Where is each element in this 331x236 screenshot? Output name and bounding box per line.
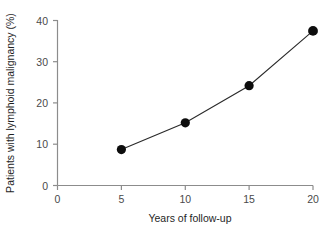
x-tick-label-10: 10 bbox=[179, 193, 191, 205]
x-tick-label-0: 0 bbox=[55, 193, 61, 205]
y-tick-label-40: 40 bbox=[36, 15, 48, 27]
data-point-marker bbox=[181, 118, 190, 127]
data-point-marker bbox=[245, 81, 254, 90]
chart-plot-area: 40 30 20 10 0 0 5 10 15 20 Years of foll… bbox=[0, 0, 331, 236]
data-point-marker bbox=[308, 26, 318, 36]
y-tick-label-10: 10 bbox=[36, 138, 48, 150]
data-point-marker bbox=[117, 145, 126, 154]
y-tick-label-30: 30 bbox=[36, 56, 48, 68]
x-axis-title: Years of follow-up bbox=[148, 212, 231, 224]
y-tick-label-0: 0 bbox=[42, 180, 48, 192]
x-tick-label-15: 15 bbox=[243, 193, 255, 205]
x-tick-label-20: 20 bbox=[307, 193, 319, 205]
series-line-lymphoid-malignancy bbox=[121, 31, 313, 150]
y-axis-title: Patients with lymphoid malignancy (%) bbox=[4, 13, 16, 193]
y-tick-label-20: 20 bbox=[36, 97, 48, 109]
x-tick-label-5: 5 bbox=[118, 193, 124, 205]
chart-figure: 40 30 20 10 0 0 5 10 15 20 Years of foll… bbox=[0, 0, 331, 236]
